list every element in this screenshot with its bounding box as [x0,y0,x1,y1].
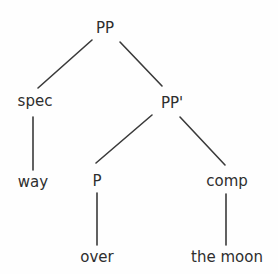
tree-edge-ppbar-p [96,115,152,163]
syntax-tree-diagram: PPspecPP'wayPcompoverthe moon [0,0,278,274]
edge-group [33,40,226,245]
tree-node-comp: comp [206,173,248,189]
tree-node-over: over [80,249,113,265]
tree-node-spec: spec [18,93,53,109]
tree-node-pp-bar: PP' [161,95,183,111]
tree-node-root: PP [96,20,114,36]
tree-node-the-moon: the moon [191,249,263,265]
tree-node-way: way [18,174,48,190]
tree-node-p-head: P [92,173,101,189]
tree-edge-ppbar-comp [180,117,225,165]
tree-edges-layer [0,0,278,274]
tree-edge-root-spec [38,40,92,88]
tree-edge-root-ppbar [120,42,162,86]
